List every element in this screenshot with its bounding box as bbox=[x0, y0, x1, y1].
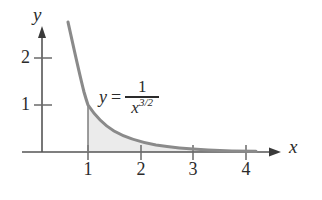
curve-equation-annotation: y = 1 x3/2 bbox=[99, 78, 159, 116]
x-axis-label: x bbox=[289, 137, 297, 156]
x-tick-label-4: 4 bbox=[238, 160, 254, 178]
equation-left-side: y bbox=[99, 88, 107, 106]
fraction-denominator: x3/2 bbox=[128, 98, 156, 116]
x-axis-arrowhead bbox=[269, 148, 281, 157]
x-tick-label-3: 3 bbox=[185, 160, 201, 178]
x-tick-label-1: 1 bbox=[80, 160, 96, 178]
denominator-exponent: 3/2 bbox=[139, 96, 153, 108]
y-axis-arrowhead bbox=[38, 26, 46, 38]
plot-svg bbox=[0, 0, 322, 200]
y-tick-label-2: 2 bbox=[16, 48, 30, 66]
fraction-numerator: 1 bbox=[135, 78, 150, 96]
y-axis-label: y bbox=[33, 5, 41, 24]
equation-equals-sign: = bbox=[111, 88, 121, 106]
denominator-base: x bbox=[131, 98, 139, 117]
equation-fraction: 1 x3/2 bbox=[125, 78, 159, 116]
y-tick-label-1: 1 bbox=[16, 95, 30, 113]
x-tick-label-2: 2 bbox=[133, 160, 149, 178]
figure-canvas: y x 2 1 1 2 3 4 y = 1 x3/2 bbox=[0, 0, 322, 200]
